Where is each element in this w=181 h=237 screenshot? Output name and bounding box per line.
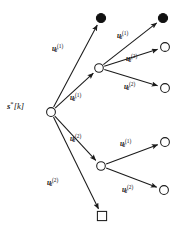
node-n-d-square	[97, 211, 106, 220]
edge-e-root-b	[55, 73, 93, 108]
label-superscript: (1)	[57, 43, 63, 49]
label-superscript: (2)	[129, 81, 135, 87]
edge-label-e-c-c2: ud(2)	[122, 185, 133, 195]
edge-label-e-root-c: ud(2)	[70, 134, 81, 144]
label-superscript: (2)	[131, 53, 137, 59]
edge-e-c-c1	[106, 145, 158, 164]
node-n-c2-open-circle	[160, 186, 169, 195]
node-n-b-open-circle	[95, 64, 104, 73]
label-superscript: (1)	[75, 92, 81, 98]
label-superscript: (2)	[52, 177, 58, 183]
node-n-b1-filled-circle	[158, 13, 167, 22]
root-node-label: s*[k]	[7, 101, 24, 110]
figure-canvas: s*[k] ud(1)ud(1)ud(2)ud(2)ud(1)ud(2)ud(2…	[0, 0, 181, 237]
node-n-b2-open-circle	[161, 43, 170, 52]
edge-label-e-root-d: ud(2)	[47, 178, 58, 188]
edge-label-e-c-c1: ud(1)	[120, 139, 131, 149]
node-n-c1-open-circle	[161, 138, 170, 147]
node-n-a-filled-circle	[96, 13, 105, 22]
node-n-c-open-circle	[97, 162, 106, 171]
label-superscript: (2)	[127, 184, 133, 190]
edge-label-e-b-b3: ud(2)	[124, 82, 135, 92]
edge-label-e-b-b1: ud(1)	[117, 31, 128, 41]
edge-e-root-d	[53, 117, 98, 209]
label-superscript: (1)	[122, 30, 128, 36]
edge-label-e-b-b2: ud(2)	[126, 54, 137, 64]
node-root-open-circle	[47, 108, 56, 117]
edge-label-e-root-b: ud(1)	[70, 93, 81, 103]
node-n-b3-open-circle	[161, 84, 170, 93]
label-superscript: (1)	[125, 138, 131, 144]
tree-graph	[0, 0, 181, 237]
edge-label-e-root-a: ud(1)	[52, 44, 63, 54]
label-superscript: (2)	[75, 133, 81, 139]
root-label-bracket: [k]	[14, 101, 25, 111]
nodes-group	[47, 13, 170, 220]
edges-group	[53, 23, 157, 209]
